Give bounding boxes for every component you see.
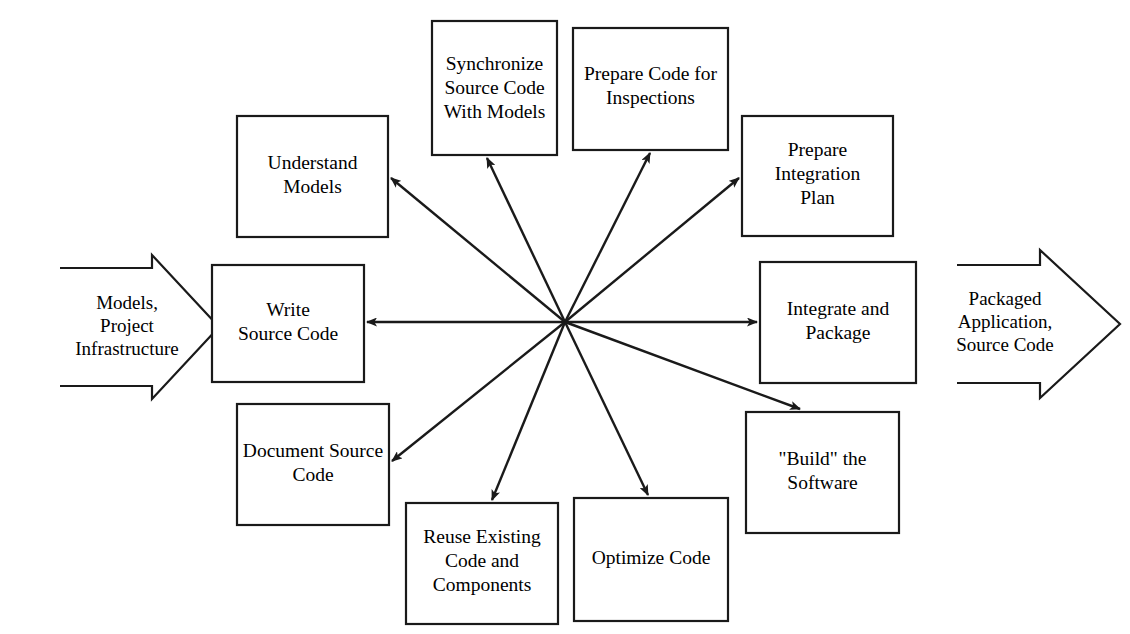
box-reuse-existing-label-line-1: Reuse Existing [423, 526, 541, 547]
input-arrow-models-project-infrastructure: Models, Project Infrastructure [60, 255, 219, 399]
box-build-the-software-label-line-1: "Build" the [779, 448, 867, 469]
diagram-canvas: Models, Project Infrastructure Packaged … [0, 0, 1130, 634]
box-synchronize-label-line-3: With Models [444, 101, 546, 122]
box-prepare-code-label-line-1: Prepare Code for [584, 63, 718, 84]
box-integrate-and-package[interactable]: Integrate and Package [760, 262, 916, 383]
box-build-the-software-label-line-2: Software [787, 472, 857, 493]
box-document-source-code-label-line-1: Document Source [243, 440, 383, 461]
box-prepare-integration-plan-label-line-2: Integration [775, 163, 861, 184]
output-arrow-label-line-1: Packaged [969, 288, 1042, 309]
box-prepare-integration-plan[interactable]: Prepare Integration Plan [742, 116, 893, 236]
connector-hub-to-document-source-code [392, 322, 565, 461]
output-arrow-packaged-application-source-code: Packaged Application, Source Code [956, 250, 1120, 398]
connector-hub-to-prepare-code-for-inspections [565, 153, 650, 322]
input-arrow-label-line-2: Project [100, 315, 155, 336]
box-understand-models-label-line-2: Models [283, 176, 342, 197]
box-document-source-code[interactable]: Document Source Code [237, 404, 389, 525]
box-write-source-code-label-line-1: Write [266, 299, 310, 320]
box-integrate-and-package-label-line-2: Package [806, 322, 871, 343]
box-understand-models-label-line-1: Understand [268, 152, 358, 173]
box-reuse-existing-label-line-2: Code and [445, 550, 519, 571]
connector-hub-to-reuse-existing-code [492, 322, 565, 500]
connector-group [367, 153, 800, 500]
input-arrow-label-line-1: Models, [96, 292, 158, 313]
box-write-source-code[interactable]: Write Source Code [212, 265, 364, 382]
output-arrow-label-line-2: Application, [958, 311, 1052, 332]
process-diagram: Models, Project Infrastructure Packaged … [0, 0, 1130, 634]
box-optimize-code-label-line-1: Optimize Code [592, 547, 711, 568]
connector-hub-to-prepare-integration-plan [565, 178, 739, 322]
box-integrate-and-package-label-line-1: Integrate and [787, 298, 890, 319]
box-synchronize-source-code-with-models[interactable]: Synchronize Source Code With Models [432, 21, 557, 155]
box-build-the-software[interactable]: "Build" the Software [746, 412, 899, 533]
box-prepare-integration-plan-label-line-3: Plan [800, 187, 835, 208]
input-arrow-label-line-3: Infrastructure [75, 338, 178, 359]
box-prepare-code-for-inspections[interactable]: Prepare Code for Inspections [573, 28, 728, 150]
box-understand-models[interactable]: Understand Models [237, 116, 388, 237]
box-optimize-code[interactable]: Optimize Code [574, 498, 728, 621]
box-reuse-existing-label-line-3: Components [433, 574, 532, 595]
connector-hub-to-synchronize-source-code [487, 158, 565, 322]
box-prepare-integration-plan-label-line-1: Prepare [788, 139, 848, 160]
box-reuse-existing-code-and-components[interactable]: Reuse Existing Code and Components [406, 503, 558, 624]
box-document-source-code-label-line-2: Code [292, 464, 333, 485]
connector-hub-to-understand-models [391, 178, 565, 322]
box-prepare-code-label-line-2: Inspections [606, 87, 695, 108]
box-write-source-code-label-line-2: Source Code [238, 323, 338, 344]
box-synchronize-label-line-1: Synchronize [446, 53, 543, 74]
output-arrow-label-line-3: Source Code [956, 334, 1054, 355]
box-synchronize-label-line-2: Source Code [444, 77, 544, 98]
